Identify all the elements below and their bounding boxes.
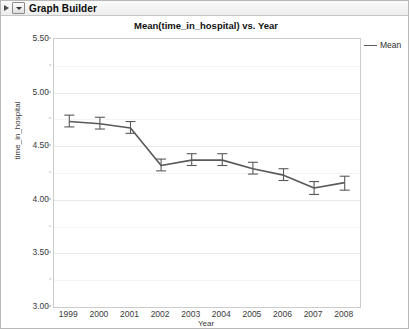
y-tick-label: 4.50: [7, 140, 49, 150]
y-tick-label: 4.00: [7, 194, 49, 204]
x-axis-label: Year: [53, 319, 359, 328]
chart-title: Mean(time_in_hospital) vs. Year: [53, 20, 359, 31]
y-tick-mark-minor: [49, 64, 51, 65]
y-tick-mark: [47, 306, 51, 307]
y-tick-label: 5.50: [7, 33, 49, 43]
x-tick-label: 2008: [324, 309, 364, 319]
window-titlebar: Graph Builder: [1, 1, 408, 16]
legend-line-swatch: [364, 45, 377, 46]
window-title: Graph Builder: [29, 3, 97, 14]
y-tick-mark: [47, 145, 51, 146]
y-tick-mark: [47, 198, 51, 199]
y-axis-ticks: 5.505.004.504.003.503.00: [3, 38, 49, 306]
y-tick-label: 5.00: [7, 87, 49, 97]
triangle-right-icon[interactable]: [4, 5, 9, 11]
chart-legend: Mean: [364, 40, 401, 50]
y-tick-mark: [47, 252, 51, 253]
y-tick-mark: [47, 38, 51, 39]
y-tick-label: 3.50: [7, 247, 49, 257]
y-tick-mark-minor: [49, 279, 51, 280]
legend-item-label: Mean: [380, 40, 401, 50]
y-tick-mark: [47, 91, 51, 92]
y-tick-mark-minor: [49, 118, 51, 119]
y-tick-label: 3.00: [7, 301, 49, 311]
series-mean: [54, 39, 360, 307]
chevron-down-icon[interactable]: [12, 2, 25, 14]
plot-area: [53, 38, 361, 308]
series-line: [69, 122, 344, 188]
chart-canvas: Mean(time_in_hospital) vs. Year time_in_…: [1, 16, 408, 328]
y-tick-mark-minor: [49, 225, 51, 226]
y-tick-mark-minor: [49, 172, 51, 173]
graph-builder-window: Graph Builder Mean(time_in_hospital) vs.…: [0, 0, 409, 329]
